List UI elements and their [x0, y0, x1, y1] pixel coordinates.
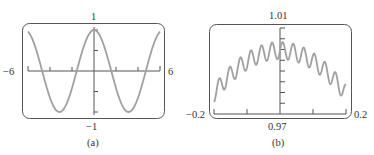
y-max-label: 1.01 — [269, 10, 287, 21]
y-max-label: 1 — [91, 11, 96, 22]
x-min-label: −6 — [3, 66, 14, 77]
x-min-label: −0.2 — [186, 109, 205, 120]
panel-b: −0.2 0.2 1.01 0.97 (b) — [186, 10, 367, 149]
x-max-label: 6 — [168, 66, 173, 77]
panel-caption: (a) — [87, 137, 99, 149]
panel-caption: (b) — [272, 137, 285, 149]
x-max-label: 0.2 — [354, 109, 367, 120]
y-min-label: 0.97 — [268, 121, 286, 132]
y-min-label: −1 — [86, 121, 97, 132]
figure: −6 6 1 −1 (a) −0.2 0.2 1.01 0.97 (b) — [0, 0, 374, 155]
panel-a: −6 6 1 −1 (a) — [3, 11, 173, 149]
